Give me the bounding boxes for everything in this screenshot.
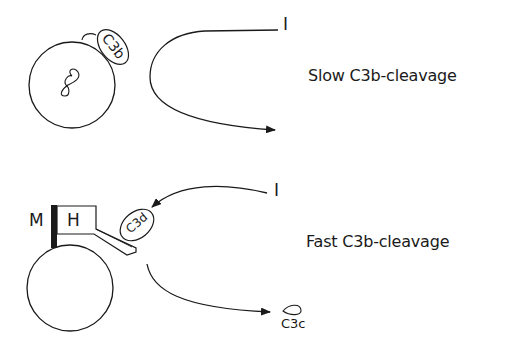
bottom-cell-circle [27,245,113,331]
release-arrow [147,264,270,312]
bottom-panel [27,186,301,331]
squiggle-icon [61,69,79,96]
bottom-factor-arrow [152,186,267,207]
cofactor-h-label: H [67,210,80,230]
top-panel [29,24,278,130]
top-factor-i-label: I [283,14,288,34]
diagram-canvas [0,0,508,359]
fast-cleavage-caption: Fast C3b-cleavage [306,232,449,251]
c3c-label: C3c [281,316,306,331]
bottom-factor-i-label: I [274,180,279,200]
top-cell-circle [29,42,115,128]
membrane-bar [51,205,57,248]
c3b-attachment [82,34,96,40]
top-factor-arrow [150,30,278,130]
c3c-fragment-icon [283,305,301,314]
slow-cleavage-caption: Slow C3b-cleavage [308,66,457,85]
membrane-m-label: M [29,210,44,230]
